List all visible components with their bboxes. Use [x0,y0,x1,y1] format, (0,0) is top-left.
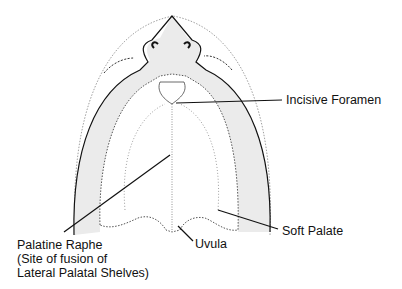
label-palatine-raphe-sub1: (Site of fusion of [17,252,107,266]
label-uvula: Uvula [195,237,227,251]
label-palatine-raphe-sub2: Lateral Palatal Shelves) [17,266,149,280]
leader-uvula [178,226,193,241]
label-incisive-foramen: Incisive Foramen [286,93,381,107]
palate-diagram: Incisive Foramen Soft Palate Uvula Palat… [0,0,402,289]
label-soft-palate: Soft Palate [282,224,343,238]
label-palatine-raphe: Palatine Raphe [17,238,102,252]
